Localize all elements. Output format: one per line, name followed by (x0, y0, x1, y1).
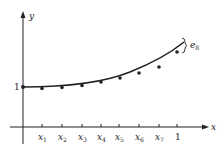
error-label: e8 (190, 40, 199, 51)
tick-x6: x6 (135, 132, 144, 143)
tick-one: 1 (175, 132, 181, 142)
curve-start-point (21, 85, 25, 89)
tick-x2: x2 (58, 132, 67, 143)
error-brace-icon (182, 38, 187, 53)
y-tick-label-one: 1 (14, 82, 20, 92)
data-points (40, 50, 179, 90)
x-axis-label: x (211, 122, 216, 132)
tick-x7: x7 (155, 132, 164, 143)
y-axis-arrow-icon (21, 11, 26, 18)
x-axis-arrow-icon (202, 125, 209, 130)
x-tick-labels: x1 x2 x3 x4 x5 x6 x7 1 (38, 132, 181, 143)
tick-x1: x1 (38, 132, 47, 143)
function-curve (23, 42, 184, 87)
tick-x3: x3 (78, 132, 87, 143)
tick-x5: x5 (115, 132, 124, 143)
y-axis-label: y (28, 11, 35, 21)
tick-x4: x4 (97, 132, 106, 143)
chart: y x 1 x1 x2 x3 x4 x5 x6 x7 1 (0, 0, 220, 148)
